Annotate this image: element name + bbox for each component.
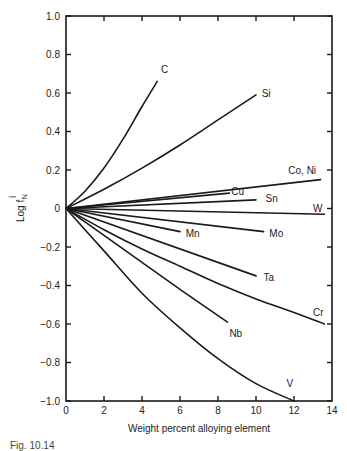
curves — [66, 81, 324, 401]
y-tick-label: 1.0 — [46, 11, 60, 22]
curve-cr — [66, 209, 324, 325]
x-tick-label: 4 — [139, 405, 145, 416]
x-tick-label: 14 — [326, 405, 338, 416]
y-tick-label: 0.2 — [46, 165, 60, 176]
curve-label-mn: Mn — [186, 228, 200, 239]
y-tick-label: −0.2 — [40, 242, 60, 253]
curve-v — [66, 209, 294, 402]
y-tick-label: −1.0 — [40, 396, 60, 407]
curve-label-cu: Cu — [231, 186, 244, 197]
x-tick-label: 2 — [101, 405, 107, 416]
x-tick-label: 6 — [177, 405, 183, 416]
y-axis-title: Log fN i — [7, 194, 29, 222]
curve-label-si: Si — [262, 88, 271, 99]
x-tick-label: 10 — [250, 405, 262, 416]
curve-label-v: V — [286, 378, 293, 389]
curve-label-mo: Mo — [269, 228, 283, 239]
y-tick-label: 0 — [54, 203, 60, 214]
y-axis-title-sub: N — [20, 194, 29, 200]
curve-ta — [66, 209, 256, 276]
curve-label-nb: Nb — [229, 328, 242, 339]
curve-c — [66, 81, 157, 208]
figure-caption: Fig. 10.14 — [10, 440, 54, 451]
curve-labels: CSiCo, NiCuSnWMnMoTaCrNbV — [161, 64, 324, 389]
curve-si — [66, 95, 256, 209]
y-tick-label: −0.8 — [40, 357, 60, 368]
y-tick-label: 0.8 — [46, 49, 60, 60]
curve-label-co-ni: Co, Ni — [288, 165, 316, 176]
x-tick-label: 12 — [288, 405, 300, 416]
x-tick-label: 8 — [215, 405, 221, 416]
y-axis-title-main: Log f — [15, 200, 26, 222]
y-tick-label: −0.4 — [40, 280, 60, 291]
y-tick-label: 0.6 — [46, 88, 60, 99]
curve-label-sn: Sn — [266, 193, 278, 204]
curve-label-cr: Cr — [313, 307, 324, 318]
y-tick-label: 0.4 — [46, 126, 60, 137]
curve-label-ta: Ta — [264, 272, 275, 283]
y-axis-title-sup: i — [7, 196, 18, 198]
y-tick-label: −0.6 — [40, 319, 60, 330]
x-tick-label: 0 — [63, 405, 69, 416]
curve-label-c: C — [161, 64, 168, 75]
x-axis-title: Weight percent alloying element — [128, 423, 270, 434]
curve-sn — [66, 200, 256, 209]
curve-label-w: W — [313, 203, 323, 214]
